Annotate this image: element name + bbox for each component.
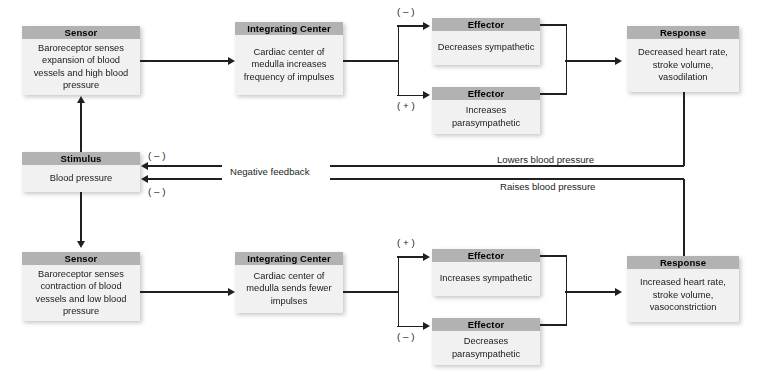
connector-effector1-out-bottom [540,255,567,257]
connector-response-bottom-up [683,179,685,256]
node-response-top: Response Decreased heart rate, stroke vo… [627,26,739,92]
connector-ic-split-vertical-top [398,25,400,96]
node-sensor-bottom-header: Sensor [22,252,140,265]
arrowhead-effector1-bottom [423,253,430,261]
label-negative-feedback: Negative feedback [230,166,309,177]
node-effector-increases-sympathetic: Effector Increases sympathetic [432,249,540,296]
connector-sensor-to-ic-top [140,60,230,62]
arrowhead-feedback-lowers [141,162,148,170]
sign-effector2-bottom: ( – ) [397,331,414,342]
node-integrating-center-bottom: Integrating Center Cardiac center of med… [235,252,343,313]
node-sensor-top-header: Sensor [22,26,140,39]
connector-sensor-to-ic-bottom [140,291,230,293]
node-response-top-body: Decreased heart rate, stroke volume, vas… [627,39,739,92]
sign-effector1-top: ( – ) [397,6,414,17]
connector-effector1-out-top [540,24,567,26]
node-sensor-bottom: Sensor Baroreceptor senses contraction o… [22,252,140,321]
connector-effector2-out-top [540,93,567,95]
node-effector-increases-parasympathetic: Effector Increases parasympathetic [432,87,540,134]
connector-ic-to-effector1-bottom [397,256,425,258]
sign-feedback-bottom: ( – ) [148,186,165,197]
arrowhead-effector1-top [423,22,430,30]
node-stimulus-body: Blood pressure [22,165,140,192]
arrowhead-response-top [615,57,622,65]
node-effector-decreases-parasympathetic: Effector Decreases parasympathetic [432,318,540,365]
node-response-bottom: Response Increased heart rate, stroke vo… [627,256,739,322]
node-integrating-center-bottom-body: Cardiac center of medulla sends fewer im… [235,265,343,313]
node-effector-increases-parasympathetic-body: Increases parasympathetic [432,100,540,134]
arrowhead-sensor-to-ic-bottom [228,288,235,296]
arrowhead-sensor-to-ic-top [228,57,235,65]
sign-effector1-bottom: ( + ) [397,237,415,248]
connector-stimulus-to-sensor-top [80,100,82,152]
node-response-bottom-body: Increased heart rate, stroke volume, vas… [627,269,739,322]
arrowhead-stimulus-to-sensor-top [77,96,85,103]
node-response-bottom-header: Response [627,256,739,269]
node-effector-increases-sympathetic-body: Increases sympathetic [432,262,540,296]
connector-ic-out-top [343,60,399,62]
connector-ic-to-effector2-bottom [397,326,425,328]
connector-ic-split-vertical-bottom [398,256,400,327]
label-raises-blood-pressure: Raises blood pressure [500,181,595,192]
connector-merge-to-response-bottom [565,291,617,293]
node-effector-decreases-parasympathetic-body: Decreases parasympathetic [432,331,540,365]
connector-merge-to-response-top [565,60,617,62]
connector-ic-out-bottom [343,291,399,293]
connector-ic-to-effector2-top [397,95,425,97]
sign-feedback-top: ( – ) [148,150,165,161]
node-integrating-center-bottom-header: Integrating Center [235,252,343,265]
connector-effector2-out-bottom [540,324,567,326]
node-response-top-header: Response [627,26,739,39]
connector-stimulus-to-sensor-bottom [80,192,82,242]
node-effector-increases-sympathetic-header: Effector [432,249,540,262]
arrowhead-effector2-bottom [423,322,430,330]
connector-response-top-down [683,92,685,166]
node-sensor-top-body: Baroreceptor senses expansion of blood v… [22,39,140,95]
node-integrating-center-top: Integrating Center Cardiac center of med… [235,22,343,95]
node-stimulus-header: Stimulus [22,152,140,165]
sign-effector2-top: ( + ) [397,100,415,111]
feedback-loop-diagram: Sensor Baroreceptor senses expansion of … [0,0,762,381]
label-lowers-blood-pressure: Lowers blood pressure [497,154,594,165]
arrowhead-response-bottom [615,288,622,296]
arrowhead-stimulus-to-sensor-bottom [77,241,85,248]
node-effector-decreases-parasympathetic-header: Effector [432,318,540,331]
node-integrating-center-top-header: Integrating Center [235,22,343,35]
node-integrating-center-top-body: Cardiac center of medulla increases freq… [235,35,343,95]
node-sensor-bottom-body: Baroreceptor senses contraction of blood… [22,265,140,321]
node-effector-decreases-sympathetic-body: Decreases sympathetic [432,31,540,65]
connector-feedback-lowers-right [330,165,684,167]
arrowhead-effector2-top [423,91,430,99]
node-stimulus: Stimulus Blood pressure [22,152,140,192]
node-effector-decreases-sympathetic-header: Effector [432,18,540,31]
node-sensor-top: Sensor Baroreceptor senses expansion of … [22,26,140,95]
node-effector-decreases-sympathetic: Effector Decreases sympathetic [432,18,540,65]
connector-feedback-raises-right [330,178,684,180]
connector-feedback-raises-left [146,178,222,180]
arrowhead-feedback-raises [141,175,148,183]
node-effector-increases-parasympathetic-header: Effector [432,87,540,100]
connector-ic-to-effector1-top [397,25,425,27]
connector-feedback-lowers-left [146,165,222,167]
